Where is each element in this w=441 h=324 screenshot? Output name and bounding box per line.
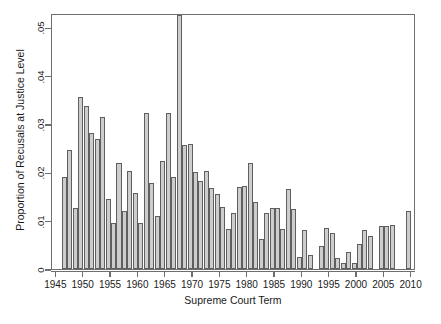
bar xyxy=(89,133,94,269)
x-tick-mark xyxy=(109,271,110,277)
x-tick-mark xyxy=(164,271,165,277)
bar xyxy=(226,229,231,269)
bar xyxy=(330,233,335,269)
bar xyxy=(275,208,280,269)
y-tick-label: .04 xyxy=(36,57,46,97)
bar xyxy=(149,183,154,269)
x-tick-mark xyxy=(355,271,356,277)
x-tick-mark xyxy=(273,271,274,277)
bar xyxy=(78,97,83,269)
bar xyxy=(264,213,269,269)
bar xyxy=(215,194,220,269)
bar xyxy=(138,223,143,269)
bar xyxy=(231,213,236,269)
x-tick-mark xyxy=(246,271,247,277)
bar xyxy=(302,230,307,269)
bar xyxy=(357,244,362,269)
bar xyxy=(341,263,346,269)
bar xyxy=(188,144,193,269)
x-tick-mark xyxy=(55,271,56,277)
bar xyxy=(406,211,411,269)
bar xyxy=(171,177,176,269)
bar xyxy=(308,255,313,269)
bar xyxy=(297,257,302,269)
bar xyxy=(84,106,89,269)
bar xyxy=(100,117,105,269)
bar xyxy=(209,188,214,269)
bar xyxy=(127,171,132,269)
x-axis-title: Supreme Court Term xyxy=(51,294,415,307)
bar xyxy=(62,177,67,269)
bar xyxy=(237,187,242,269)
bar xyxy=(182,145,187,269)
bar xyxy=(166,113,171,269)
bar xyxy=(390,225,395,269)
bar xyxy=(95,139,100,269)
bar xyxy=(155,216,160,269)
y-axis: 0.01.02.03.04.05 xyxy=(0,0,51,324)
x-tick-mark xyxy=(383,271,384,277)
bar xyxy=(204,171,209,269)
bar xyxy=(177,15,182,269)
bar xyxy=(198,181,203,269)
bar xyxy=(144,113,149,269)
bar xyxy=(111,223,116,269)
bar xyxy=(346,252,351,269)
chart-figure: Proportion of Recusals at Justice Level … xyxy=(0,0,441,324)
bar xyxy=(324,228,329,269)
plot-frame xyxy=(51,14,415,270)
x-tick-mark xyxy=(137,271,138,277)
bar xyxy=(270,208,275,269)
bar xyxy=(73,208,78,269)
bar xyxy=(116,163,121,269)
bar xyxy=(286,189,291,269)
y-tick-label: .05 xyxy=(36,8,46,48)
bar xyxy=(253,202,258,269)
bar xyxy=(193,172,198,269)
bar xyxy=(259,239,264,269)
bar xyxy=(291,209,296,269)
x-tick-mark xyxy=(410,271,411,277)
bar xyxy=(220,207,225,269)
bar xyxy=(362,230,367,269)
bar xyxy=(160,161,165,269)
bar xyxy=(122,211,127,269)
x-tick-label: 2010 xyxy=(391,279,431,291)
bar xyxy=(242,186,247,269)
x-tick-mark xyxy=(301,271,302,277)
x-tick-mark xyxy=(219,271,220,277)
x-tick-mark xyxy=(328,271,329,277)
x-tick-mark xyxy=(191,271,192,277)
y-tick-label: .03 xyxy=(36,105,46,145)
bar xyxy=(106,199,111,269)
plot-area xyxy=(52,15,414,269)
bar xyxy=(67,150,72,269)
x-axis-line xyxy=(51,271,415,272)
bar xyxy=(133,193,138,269)
bar xyxy=(248,163,253,269)
bar xyxy=(352,263,357,269)
bar xyxy=(384,226,389,269)
bar xyxy=(280,229,285,269)
bar xyxy=(379,226,384,269)
x-tick-mark xyxy=(82,271,83,277)
bar xyxy=(319,246,324,269)
bar xyxy=(335,258,340,269)
bar xyxy=(368,236,373,269)
y-tick-label: .02 xyxy=(36,153,46,193)
y-tick-label: .01 xyxy=(36,202,46,242)
